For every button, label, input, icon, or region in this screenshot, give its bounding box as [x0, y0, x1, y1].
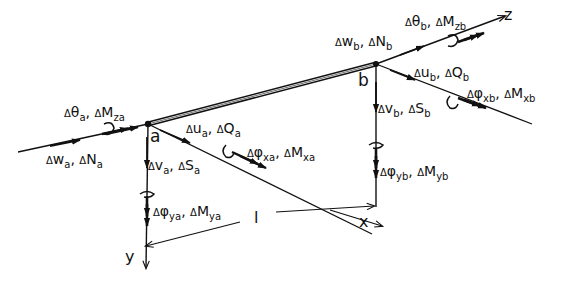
- label-w-b-nb: Δwb, ΔNb: [335, 33, 392, 49]
- label-phi-xa-mxa: Δφxa, ΔMxa: [247, 144, 315, 160]
- node-a-label: a: [150, 128, 160, 145]
- z-axis: [18, 16, 505, 152]
- label-phi-yb-myb: Δφyb, ΔMyb: [380, 163, 448, 179]
- label-theta-b-mzb: Δθb, ΔMzb: [405, 13, 466, 29]
- node-b-label: b: [358, 72, 369, 89]
- axis-label-y: y: [125, 249, 134, 265]
- label-phi-xb-mxb: Δφxb, ΔMxb: [467, 85, 535, 101]
- label-u-b-qb: Δub, ΔQb: [414, 64, 469, 80]
- label-v-a-sa: Δva, ΔSa: [148, 157, 200, 173]
- axis-label-z: z: [504, 7, 512, 23]
- length-label: l: [254, 210, 258, 226]
- moment-curl-xb-icon: [447, 96, 458, 109]
- label-u-a-qa: Δua, ΔQa: [186, 120, 241, 136]
- label-theta-a-mza: Δθa, ΔMza: [64, 104, 125, 120]
- label-w-a-na: Δwa, ΔNa: [46, 151, 103, 167]
- beam-member: [148, 64, 376, 124]
- label-phi-ya-mya: Δφya, ΔMya: [153, 203, 221, 219]
- label-v-b-sb: Δvb, ΔSb: [378, 100, 431, 116]
- axis-label-x: x: [359, 214, 368, 230]
- beam-element-diagram: [0, 0, 562, 283]
